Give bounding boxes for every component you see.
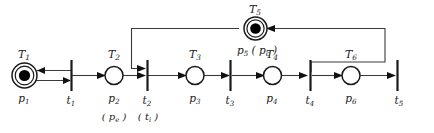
place-p2-name-label: p2 (108, 93, 119, 105)
place-p6-name-label: p6 (345, 93, 356, 105)
transition-t3-label: t3 (226, 95, 235, 107)
place-p1[interactable] (12, 63, 37, 88)
place-p2-top-label: T2 (108, 49, 120, 61)
arc-t1-to-p2 (72, 72, 106, 79)
arc-t4-to-p6 (312, 72, 343, 79)
place-p2[interactable] (105, 67, 123, 85)
place-p3-top-label: T3 (189, 49, 201, 61)
place-p5[interactable] (244, 17, 267, 40)
arc-p6-to-t5 (359, 72, 396, 79)
place-p4[interactable] (264, 67, 282, 85)
place-p3[interactable] (186, 67, 204, 85)
place-p2-alt-label: ( pe ) (102, 112, 127, 123)
transition-t2-alt-label: ( ti ) (138, 112, 158, 123)
arc-p1-to-t1 (35, 77, 71, 84)
arc-t2-to-p3 (148, 72, 187, 79)
arc-p4-to-t4 (281, 72, 308, 79)
transition-t5-label: t5 (395, 95, 404, 107)
place-p6-top-label: T6 (345, 49, 357, 61)
token-p1 (19, 70, 30, 81)
place-p5-top-label: T5 (249, 4, 261, 16)
place-p1-name-label: p1 (18, 93, 29, 105)
place-p5-name-label: p5 ( pc ) (237, 45, 277, 57)
place-p6[interactable] (342, 67, 360, 85)
place-p1-top-label: T1 (18, 49, 30, 61)
arc-t3-to-p4 (232, 72, 265, 79)
place-p4-name-label: p4 (266, 93, 277, 105)
transition-t1-label: t1 (67, 95, 76, 107)
arc-p2-to-t2 (122, 72, 146, 79)
token-p5 (250, 23, 261, 34)
petri-net-diagram: T1 p1 T2 p2 ( pe ) T3 p3 T4 p4 T5 p5 ( p… (0, 0, 434, 133)
transition-t4-label: t4 (306, 95, 315, 107)
arc-t4-to-p5 (266, 25, 385, 72)
place-p3-name-label: p3 (189, 93, 200, 105)
transition-t2-label: t2 (143, 95, 152, 107)
arc-p3-to-t3 (203, 72, 230, 79)
arc-t1-to-p1 (37, 67, 71, 74)
petri-net-canvas (0, 0, 434, 133)
